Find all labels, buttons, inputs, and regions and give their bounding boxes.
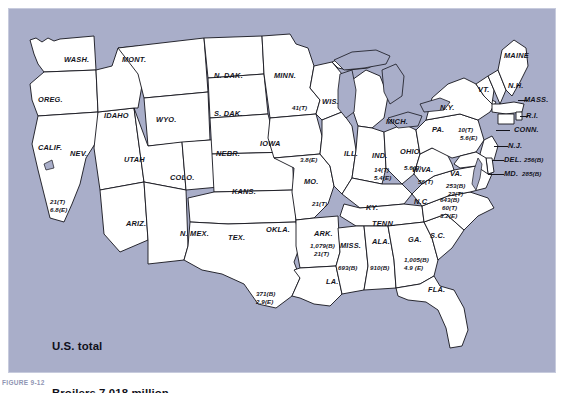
state-label-oreg: OREG. bbox=[38, 96, 63, 105]
state-label-ndak: N. DAK. bbox=[214, 72, 243, 81]
leader-line-mass bbox=[518, 100, 528, 101]
state-label-ky: KY. bbox=[366, 204, 378, 213]
leader-line-del bbox=[492, 160, 504, 161]
state-label-colo: COLO. bbox=[170, 174, 194, 183]
state-label-ga: GA. bbox=[408, 236, 422, 245]
state-values-va-turkeys: 22(T) bbox=[448, 190, 463, 197]
leader-line-ri bbox=[520, 116, 528, 117]
state-values-minn-turkeys: 41(T) bbox=[292, 104, 307, 111]
state-label-mont: MONT. bbox=[122, 56, 146, 65]
state-label-calif: CALIF. bbox=[38, 144, 62, 153]
state-label-del: DEL. bbox=[504, 156, 522, 165]
state-label-pa: PA. bbox=[432, 126, 444, 135]
state-values-calif-broilers: 21(T) bbox=[50, 198, 65, 205]
state-values-miss-broilers: 693(B) bbox=[338, 264, 358, 271]
state-values-ark-turkeys: 21(T) bbox=[314, 250, 329, 257]
state-label-tex: TEX. bbox=[228, 234, 245, 243]
state-label-iowa: IOWA bbox=[260, 140, 281, 149]
state-label-mich: MICH. bbox=[386, 118, 408, 127]
state-label-wva: W.VA. bbox=[412, 166, 433, 175]
lake-superior bbox=[334, 50, 390, 70]
state-values-mo-turkeys: 21(T) bbox=[312, 200, 327, 207]
state-values-ind-eggs: 5.4(E) bbox=[374, 174, 391, 181]
state-shape-miss bbox=[336, 226, 368, 294]
state-label-nc: N.C. bbox=[414, 198, 430, 207]
state-shape-iowa bbox=[268, 114, 322, 158]
state-shape-conn bbox=[498, 114, 514, 124]
state-label-nj: N.J. bbox=[508, 142, 522, 151]
state-values-ga-broilers: 1,005(B) bbox=[404, 256, 429, 263]
state-values-pa-eggs: 5.6(E) bbox=[460, 134, 477, 141]
state-values-md-broilers: 285(B) bbox=[522, 170, 542, 177]
state-label-fla: FLA. bbox=[428, 286, 445, 295]
state-label-miss: MISS. bbox=[340, 242, 361, 251]
state-label-nev: NEV. bbox=[70, 150, 87, 159]
state-label-maine: MAINE bbox=[504, 52, 529, 61]
state-values-iowa-eggs: 3.8(E) bbox=[300, 156, 317, 163]
state-label-sdak: S. DAK. bbox=[214, 110, 243, 119]
leader-line-nj bbox=[494, 146, 508, 147]
state-shape-ariz bbox=[100, 182, 148, 252]
state-label-wis: WIS. bbox=[322, 98, 339, 107]
lake-michigan bbox=[338, 70, 356, 118]
state-label-minn: MINN. bbox=[274, 72, 296, 81]
state-label-nh: N.H. bbox=[508, 82, 524, 91]
state-label-idaho: IDAHO bbox=[104, 112, 129, 121]
state-values-tex-eggs: 2.9(E) bbox=[256, 298, 273, 305]
state-label-ill: ILL. bbox=[344, 150, 358, 159]
state-values-ark-broilers: 1,079(B) bbox=[310, 242, 335, 249]
state-values-ala-broilers: 910(B) bbox=[370, 264, 390, 271]
state-label-nmex: N. MEX. bbox=[180, 230, 209, 239]
state-label-ariz: ARIZ. bbox=[126, 220, 146, 229]
state-shape-nmex bbox=[144, 182, 188, 264]
state-label-ind: IND. bbox=[372, 152, 388, 161]
state-label-nebr: NEBR. bbox=[216, 150, 240, 159]
state-label-ark: ARK. bbox=[314, 230, 333, 239]
state-shape-oreg bbox=[30, 70, 98, 116]
legend-title: U.S. total bbox=[52, 339, 169, 355]
leader-line-md bbox=[488, 174, 504, 175]
state-values-pa-turkeys: 10(T) bbox=[458, 126, 473, 133]
state-values-va-broilers: 253(B) bbox=[446, 182, 466, 189]
state-values-wva-turkeys: 56(T) bbox=[418, 178, 433, 185]
state-label-conn: CONN. bbox=[514, 126, 539, 135]
state-label-vt: VT. bbox=[478, 86, 490, 95]
state-label-wash: WASH. bbox=[64, 56, 89, 65]
state-values-nc-eggs: 3.2(E) bbox=[440, 212, 457, 219]
state-shape-wash bbox=[30, 36, 96, 72]
legend-block: U.S. total Broilers 7,018 million Turkey… bbox=[52, 308, 169, 393]
state-shape-wyo bbox=[144, 92, 210, 146]
state-values-del-broilers: 256(B) bbox=[524, 156, 544, 163]
state-label-kans: KANS. bbox=[232, 188, 256, 197]
state-values-calif-eggs: 6.8(E) bbox=[50, 206, 67, 213]
state-label-utah: UTAH bbox=[124, 156, 145, 165]
poultry-production-map-figure: WASH. OREG. CALIF. 21(T) 6.8(E) IDAHO NE… bbox=[0, 0, 564, 393]
state-label-md: MD. bbox=[504, 170, 518, 179]
state-label-mo: MO. bbox=[304, 178, 319, 187]
state-label-va: VA. bbox=[450, 170, 462, 179]
state-label-la: LA. bbox=[326, 278, 339, 287]
state-values-ga-eggs: 4.9 (E) bbox=[404, 264, 423, 271]
state-label-wyo: WYO. bbox=[156, 116, 177, 125]
legend-line-broilers: Broilers 7,018 million bbox=[52, 386, 169, 393]
state-values-tex-broilers: 371(B) bbox=[256, 290, 276, 297]
map-panel: WASH. OREG. CALIF. 21(T) 6.8(E) IDAHO NE… bbox=[8, 8, 556, 373]
figure-caption: FIGURE 9-12 bbox=[2, 379, 45, 387]
state-label-okla: OKLA. bbox=[266, 226, 290, 235]
state-values-nc-turkeys: 60(T) bbox=[442, 204, 457, 211]
state-label-tenn: TENN. bbox=[372, 220, 395, 229]
state-values-ind-turkeys: 14(T) bbox=[374, 166, 389, 173]
state-label-ny: N.Y. bbox=[440, 104, 455, 113]
state-label-ala: ALA. bbox=[372, 238, 390, 247]
state-label-sc: S.C. bbox=[430, 232, 445, 241]
state-label-ohio: OHIO bbox=[400, 148, 420, 157]
leader-line-conn bbox=[496, 130, 510, 131]
